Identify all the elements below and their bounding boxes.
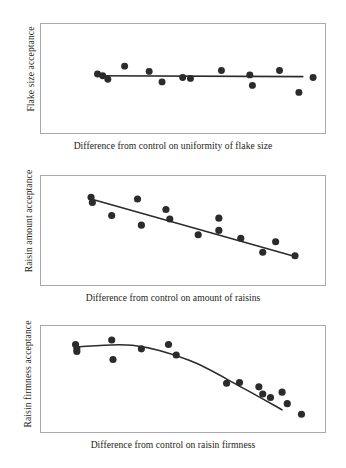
data-point [138, 345, 145, 352]
fit-line-group-2 [91, 199, 295, 257]
plot-svg-raisin-amount [41, 176, 325, 285]
plot-svg-flake-size [41, 24, 325, 133]
data-point [237, 235, 244, 242]
data-point [291, 252, 298, 259]
scatterplot-figure: Flake size acceptance Difference from co… [0, 0, 346, 468]
data-point [162, 206, 169, 213]
data-point [121, 63, 128, 70]
plot-area-flake-size [40, 23, 326, 134]
data-point [246, 71, 253, 78]
data-point [279, 389, 286, 396]
data-point [267, 394, 274, 401]
data-point [109, 356, 116, 363]
data-point [108, 337, 115, 344]
data-points-raisin-firmness [72, 337, 305, 418]
plot-area-raisin-firmness [40, 325, 326, 433]
data-point [159, 78, 166, 85]
data-point [146, 68, 153, 75]
plot-area-raisin-amount [40, 175, 326, 286]
data-point [89, 199, 96, 206]
data-point [73, 348, 80, 355]
data-point [195, 231, 202, 238]
panel-flake-size: Flake size acceptance Difference from co… [0, 14, 346, 160]
data-point [187, 75, 194, 82]
data-point [276, 67, 283, 74]
data-point [104, 76, 111, 83]
data-point [272, 238, 279, 245]
data-point [134, 195, 141, 202]
data-point [179, 74, 186, 81]
panel-raisin-amount: Raisin amount acceptance Difference from… [0, 166, 346, 312]
data-point [108, 212, 115, 219]
data-point [223, 380, 230, 387]
data-point [259, 249, 266, 256]
data-point [295, 89, 302, 96]
y-axis-label-raisin-amount: Raisin amount acceptance [20, 166, 38, 276]
data-point [166, 215, 173, 222]
plot-svg-raisin-firmness [41, 326, 325, 432]
data-point [165, 341, 172, 348]
data-point [310, 74, 317, 81]
data-point [173, 352, 180, 359]
data-point [255, 383, 262, 390]
x-axis-label-raisin-firmness: Difference from control on raisin firmne… [0, 439, 346, 450]
data-point [218, 67, 225, 74]
panel-raisin-firmness: Raisin firmness acceptance Difference fr… [0, 316, 346, 464]
data-point [236, 379, 243, 386]
data-points-flake-size [94, 63, 325, 96]
data-point [138, 222, 145, 229]
data-point [215, 227, 222, 234]
data-point [215, 215, 222, 222]
x-axis-label-flake-size: Difference from control on uniformity of… [0, 140, 346, 151]
fit-line-group-1 [96, 76, 303, 77]
data-point [298, 411, 305, 418]
y-axis-label-flake-size: Flake size acceptance [22, 14, 40, 124]
data-point [249, 82, 256, 89]
y-axis-label-raisin-firmness: Raisin firmness acceptance [19, 319, 37, 429]
data-point [284, 400, 291, 407]
x-axis-label-raisin-amount: Difference from control on amount of rai… [0, 292, 346, 303]
data-point [259, 390, 266, 397]
